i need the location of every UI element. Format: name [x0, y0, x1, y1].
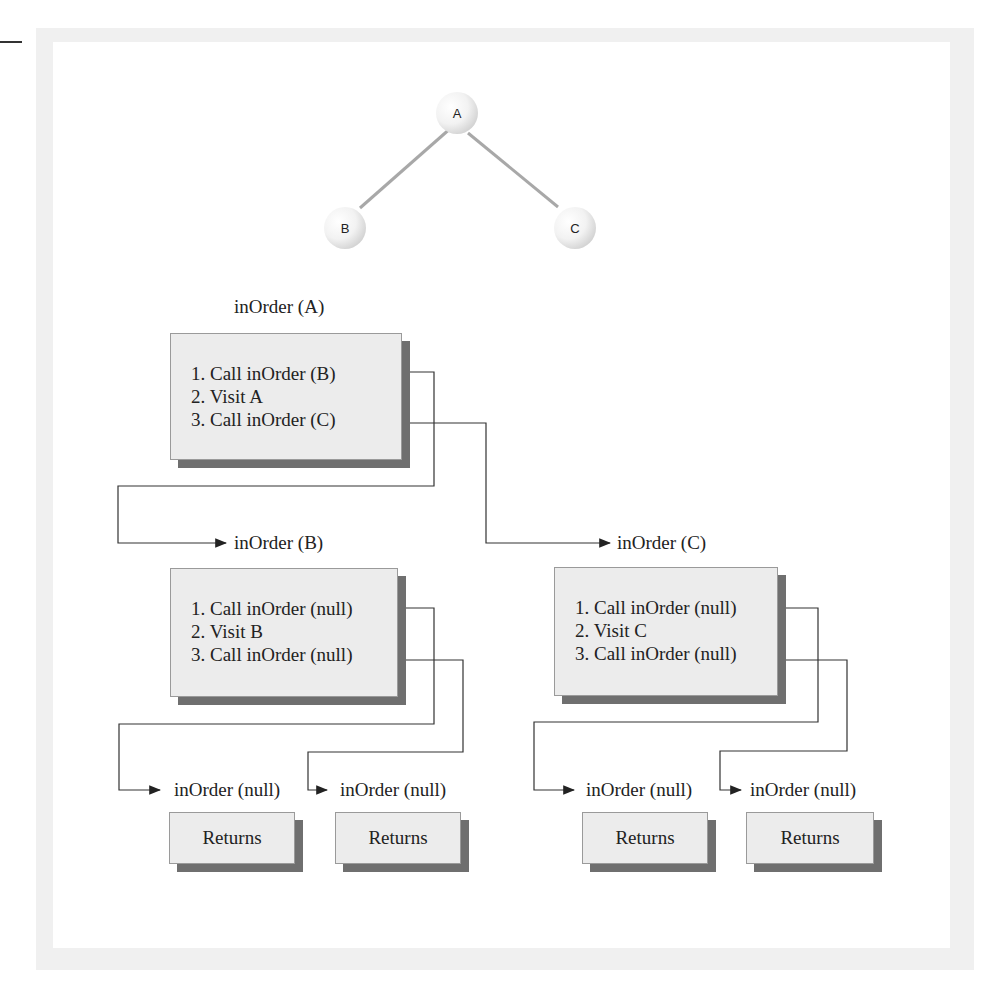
null-call-title: inOrder (null) — [340, 779, 446, 801]
node-label: C — [570, 221, 579, 236]
step-3: 3. Call inOrder (C) — [191, 408, 336, 431]
call-title-b: inOrder (B) — [234, 532, 323, 554]
step-3: 3. Call inOrder (null) — [575, 642, 736, 665]
null-frame: Returns — [169, 812, 295, 864]
tree-node-b: B — [324, 207, 366, 249]
step-2: 2. Visit A — [191, 385, 336, 408]
step-2: 2. Visit C — [575, 619, 736, 642]
call-title-a: inOrder (A) — [234, 296, 324, 318]
tree-edges — [360, 127, 558, 208]
null-call-title: inOrder (null) — [750, 779, 856, 801]
returns-label: Returns — [747, 813, 873, 863]
step-2: 2. Visit B — [191, 620, 352, 643]
tree-node-a: A — [436, 92, 478, 134]
step-1: 1. Call inOrder (null) — [191, 597, 352, 620]
null-frame: Returns — [582, 812, 708, 864]
null-call-title: inOrder (null) — [586, 779, 692, 801]
call-frame-a: 1. Call inOrder (B) 2. Visit A 3. Call i… — [170, 333, 402, 460]
node-label: A — [453, 106, 462, 121]
node-label: B — [341, 221, 350, 236]
null-frame: Returns — [746, 812, 874, 864]
tree-node-c: C — [554, 207, 596, 249]
returns-label: Returns — [170, 813, 294, 863]
call-frame-c: 1. Call inOrder (null) 2. Visit C 3. Cal… — [554, 567, 778, 696]
step-3: 3. Call inOrder (null) — [191, 643, 352, 666]
null-frame: Returns — [335, 812, 461, 864]
step-1: 1. Call inOrder (null) — [575, 596, 736, 619]
call-frame-b: 1. Call inOrder (null) 2. Visit B 3. Cal… — [170, 568, 398, 697]
returns-label: Returns — [583, 813, 707, 863]
step-1: 1. Call inOrder (B) — [191, 362, 336, 385]
returns-label: Returns — [336, 813, 460, 863]
call-title-c: inOrder (C) — [617, 532, 706, 554]
null-call-title: inOrder (null) — [174, 779, 280, 801]
